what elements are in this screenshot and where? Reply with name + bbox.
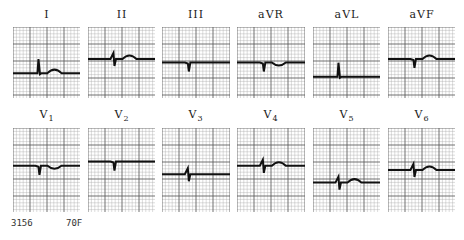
ecg-strip xyxy=(237,128,305,212)
lead-label: V3 xyxy=(162,108,230,123)
ecg-strip xyxy=(162,128,230,212)
lead-label: II xyxy=(88,8,156,21)
ecg-strip xyxy=(313,128,380,212)
ecg-strip xyxy=(13,27,80,98)
lead-label: aVR xyxy=(237,8,305,21)
ecg-strip xyxy=(162,27,230,98)
ecg-strip xyxy=(313,27,380,98)
patient-info: 70F xyxy=(66,218,82,228)
ecg-strip xyxy=(88,27,155,98)
record-id: 3156 xyxy=(11,218,33,228)
ecg-strip xyxy=(388,27,455,98)
lead-label: V2 xyxy=(88,108,156,123)
lead-label: III xyxy=(162,8,230,21)
lead-label: aVF xyxy=(388,8,456,21)
lead-label: I xyxy=(13,8,81,21)
lead-label: aVL xyxy=(313,8,381,21)
ecg-strip xyxy=(237,27,305,98)
ecg-strip xyxy=(13,128,80,212)
lead-label: V1 xyxy=(13,108,81,123)
ecg-strip xyxy=(88,128,155,212)
lead-label: V5 xyxy=(313,108,381,123)
lead-label: V4 xyxy=(237,108,305,123)
ecg-strip xyxy=(388,128,455,212)
lead-label: V6 xyxy=(388,108,456,123)
